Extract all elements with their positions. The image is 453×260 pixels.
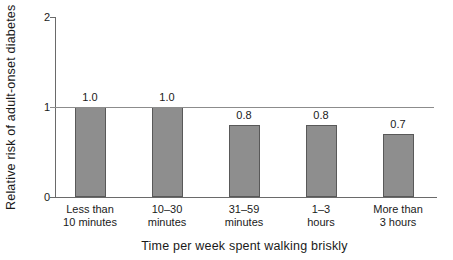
y-tick-label: 1 — [28, 101, 50, 113]
y-tick — [50, 17, 55, 18]
bar — [229, 125, 260, 197]
bar-value-label: 0.8 — [301, 109, 341, 121]
y-tick-label: 0 — [28, 191, 50, 203]
x-axis-line — [55, 197, 437, 198]
bar-value-label: 1.0 — [70, 91, 110, 103]
plot-area: 0121.0Less than 10 minutes1.010–30 minut… — [0, 0, 453, 260]
bar — [152, 107, 183, 197]
reference-line — [50, 107, 434, 108]
bar — [75, 107, 106, 197]
bar-value-label: 0.7 — [378, 118, 418, 130]
bar — [306, 125, 337, 197]
bar-value-label: 1.0 — [147, 91, 187, 103]
bar-value-label: 0.8 — [224, 109, 264, 121]
x-category-label: More than 3 hours — [353, 203, 443, 229]
bar — [383, 134, 414, 197]
y-tick-label: 2 — [28, 11, 50, 23]
x-axis-title: Time per week spent walking briskly — [55, 239, 434, 253]
y-tick — [50, 197, 55, 198]
bar-chart-figure: Relative risk of adult-onset diabetes 01… — [0, 0, 453, 260]
